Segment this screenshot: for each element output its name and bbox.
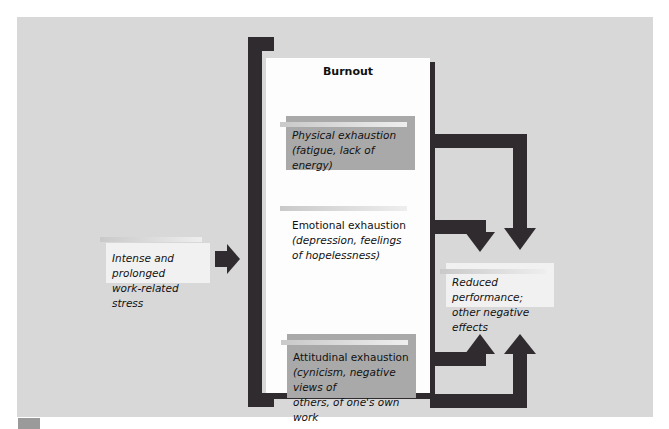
attitudinal-to-output-arrow-icon: [430, 334, 495, 366]
input-line-2: work-related stress: [112, 281, 210, 311]
input-line-1: Intense and prolonged: [112, 251, 210, 281]
output-line-1: Reduced performance;: [452, 275, 554, 305]
input-stress-box: Intense and prolonged work-related stres…: [106, 243, 210, 283]
input-arrow-icon: [215, 244, 240, 274]
emotional-to-output-arrow-icon: [430, 220, 495, 252]
box-highlight-bar: [100, 237, 202, 242]
output-line-2: other negative effects: [452, 305, 554, 335]
box-highlight-bar: [440, 269, 546, 274]
output-effects-box: Reduced performance; other negative effe…: [446, 263, 554, 307]
arrows-layer: [0, 0, 669, 429]
